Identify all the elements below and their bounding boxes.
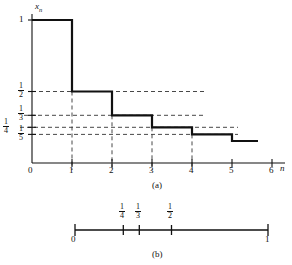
y-tick-label-1: 1 <box>19 15 24 24</box>
figure-container: xn 1 1 2 1 3 1 4 1 5 0 1 2 3 4 5 6 n (a)… <box>0 0 292 265</box>
x-tick-label-5: 5 <box>229 166 234 175</box>
y-tick-label-quarter: 1 4 <box>3 118 9 135</box>
x-tick-label-4: 4 <box>189 166 194 175</box>
panel-b-caption: (b) <box>152 249 163 259</box>
numberline-label-half: 1 2 <box>167 203 173 220</box>
x-tick-label-6: 6 <box>269 166 274 175</box>
x-tick-label-2: 2 <box>109 166 114 175</box>
panel-a-plot <box>0 0 292 200</box>
x-tick-label-3: 3 <box>149 166 154 175</box>
numberline-label-third: 1 3 <box>135 203 141 220</box>
x-tick-label-0: 0 <box>28 166 33 175</box>
horizontal-guides <box>20 92 238 135</box>
numberline-label-quarter: 1 4 <box>119 203 125 220</box>
vertical-guides <box>72 92 192 171</box>
panel-b-numberline <box>0 205 292 265</box>
x-tick-label-1: 1 <box>69 166 74 175</box>
y-tick-label-half: 1 2 <box>18 82 24 99</box>
panel-a-caption: (a) <box>152 180 162 190</box>
step-function-curve <box>32 20 258 141</box>
y-axis-label: xn <box>35 1 42 13</box>
y-tick-label-third: 1 3 <box>18 105 24 122</box>
numberline-endpoint-label-1: 1 <box>265 235 270 244</box>
numberline-endpoint-label-0: 0 <box>71 235 76 244</box>
y-tick-label-fifth: 1 5 <box>18 125 24 142</box>
x-axis-label: n <box>280 163 285 173</box>
